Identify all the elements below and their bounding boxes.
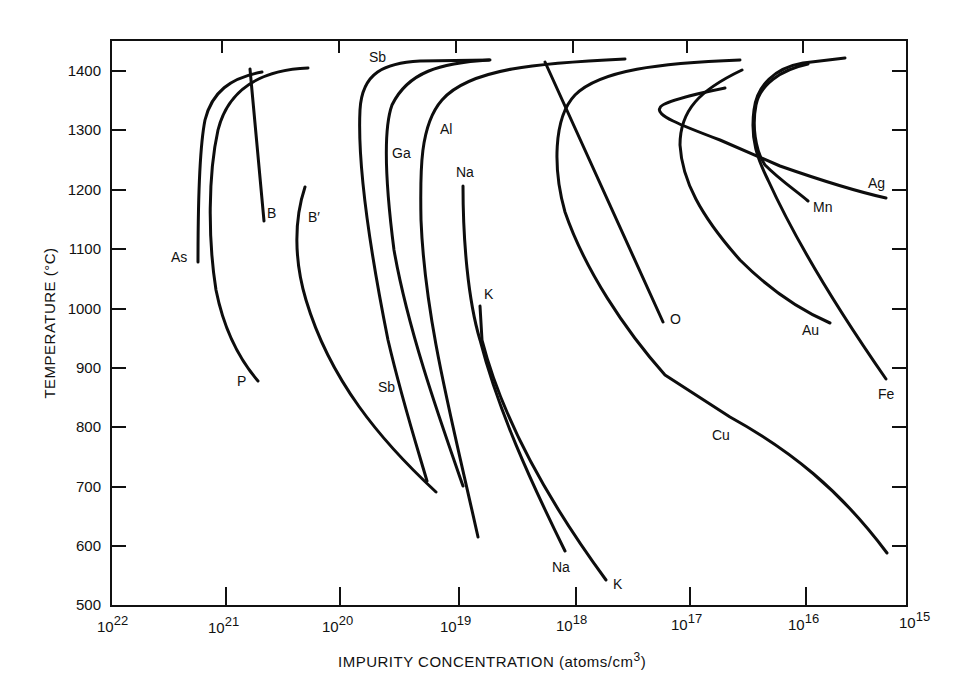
x-tick-1e20: 1020 [322, 613, 353, 635]
curve-p [210, 68, 308, 381]
y-tick-600: 600 [76, 537, 101, 554]
y-ticks [111, 71, 907, 546]
y-tick-1200: 1200 [68, 181, 101, 198]
label-ag: Ag [868, 175, 885, 191]
curve-o [545, 62, 663, 322]
y-tick-1300: 1300 [68, 121, 101, 138]
label-p: P [237, 373, 246, 389]
label-sb-top: Sb [369, 49, 386, 65]
label-sb-bottom: Sb [378, 379, 395, 395]
y-axis-title: TEMPERATURE (°C) [41, 247, 58, 398]
solubility-chart: 500 600 700 800 900 1000 1100 1200 1300 … [0, 0, 967, 693]
x-tick-1e17: 1017 [671, 611, 702, 633]
x-tick-1e22: 1022 [97, 613, 128, 635]
curve-labels: As P B B′ Sb Sb Ga Al Na Na K K O Cu Ag … [171, 49, 895, 592]
label-bprime: B′ [308, 209, 320, 225]
curve-k [480, 306, 606, 580]
y-tick-700: 700 [76, 478, 101, 495]
label-k-top: K [484, 286, 494, 302]
x-tick-1e16: 1016 [788, 611, 819, 633]
label-al: Al [440, 121, 452, 137]
label-na-bottom: Na [552, 559, 570, 575]
y-tick-labels: 500 600 700 800 900 1000 1100 1200 1300 … [68, 62, 101, 613]
label-cu: Cu [712, 427, 730, 443]
label-k-bottom: K [613, 576, 623, 592]
label-ga: Ga [392, 145, 411, 161]
y-tick-900: 900 [76, 359, 101, 376]
x-tick-1e18: 1018 [556, 612, 587, 634]
y-tick-800: 800 [76, 418, 101, 435]
x-tick-1e19: 1019 [440, 613, 471, 635]
label-fe: Fe [878, 386, 895, 402]
label-mn: Mn [813, 199, 832, 215]
curve-ga [386, 60, 489, 486]
x-axis-title: IMPURITY CONCENTRATION (atoms/cm3) [338, 650, 646, 670]
curve-b [250, 69, 264, 221]
label-na-top: Na [456, 164, 474, 180]
x-tick-labels: 1022 1021 1020 1019 1018 1017 1016 1015 [97, 609, 930, 636]
y-tick-1000: 1000 [68, 300, 101, 317]
curve-fe [753, 58, 886, 379]
label-au: Au [802, 322, 819, 338]
curves [198, 58, 887, 580]
label-b: B [267, 205, 276, 221]
y-tick-1100: 1100 [69, 240, 101, 257]
x-ticks [222, 40, 806, 606]
x-tick-1e21: 1021 [208, 614, 239, 636]
y-tick-1400: 1400 [68, 62, 101, 79]
plot-frame [111, 40, 907, 606]
label-as: As [171, 249, 187, 265]
x-tick-1e15: 1015 [899, 609, 930, 631]
label-o: O [670, 311, 681, 327]
y-tick-500: 500 [76, 596, 101, 613]
